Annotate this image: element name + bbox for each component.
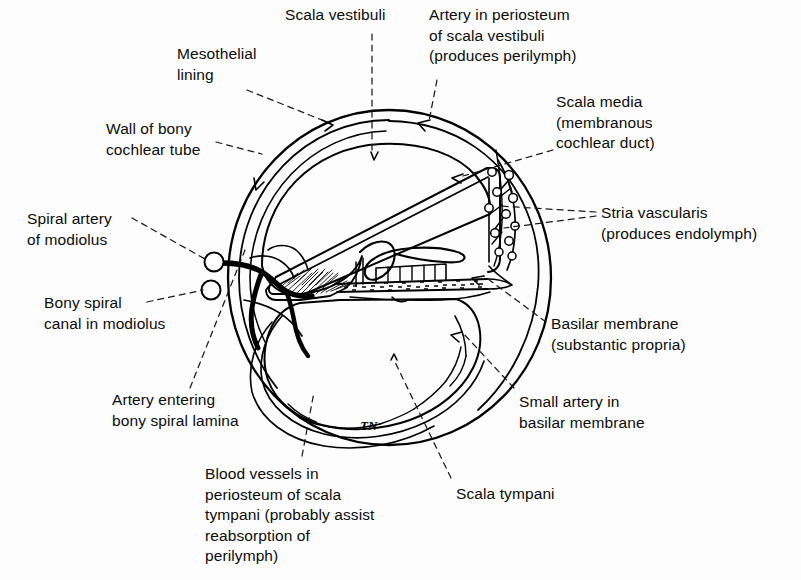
label-blood-vessels-in-periosteum-of-scala-tympani: Blood vessels in periosteum of scala tym… <box>205 464 375 567</box>
spiral-ligament-attachment-path <box>487 266 512 289</box>
spiral-artery-circle <box>205 253 224 272</box>
bony-spiral-canal-circles <box>202 253 224 300</box>
leader-artery-periosteum-sv <box>429 80 437 121</box>
leader-mesothelial-lining <box>247 90 322 120</box>
label-mesothelial-lining: Mesothelial lining <box>177 44 257 85</box>
bony-spiral-canal-circle <box>202 281 221 300</box>
label-scala-vestibuli: Scala vestibuli <box>285 5 386 26</box>
leader-spiral-artery-modiolus <box>132 218 205 259</box>
spiral-limbus-path <box>266 256 362 300</box>
cochlea-diagram-figure: TN Mesothelial lining Scala vestibuli Ar… <box>0 0 801 580</box>
label-spiral-artery-of-modiolus: Spiral artery of modiolus <box>27 209 112 250</box>
artist-signature: TN <box>360 418 378 433</box>
basilar-membrane-lower-edge-path <box>337 289 488 292</box>
label-scala-tympani: Scala tympani <box>456 484 555 505</box>
spiral-artery-branch-down-path <box>251 272 262 348</box>
leader-wall-of-bony-tube <box>216 142 262 154</box>
cochlea-diagram-svg: TN <box>0 0 801 580</box>
scala-tympani-blood-vessels <box>288 347 461 428</box>
label-scala-media: Scala media (membranous cochlear duct) <box>556 92 655 154</box>
label-artery-entering-bony-spiral-lamina: Artery entering bony spiral lamina <box>112 390 239 431</box>
label-small-artery-in-basilar-membrane: Small artery in basilar membrane <box>519 392 645 433</box>
label-stria-vascularis: Stria vascularis (produces endolymph) <box>601 203 757 244</box>
periosteum-layer-path <box>239 120 389 388</box>
reissners-membrane-inner-path <box>278 177 488 285</box>
label-basilar-membrane: Basilar membrane (substantic propria) <box>551 314 686 355</box>
leader-stria-vascularis-b <box>504 216 596 228</box>
label-bony-spiral-canal-in-modiolus: Bony spiral canal in modiolus <box>44 293 165 334</box>
label-wall-of-bony-cochlear-tube: Wall of bony cochlear tube <box>106 119 200 160</box>
label-artery-in-periosteum-of-scala-vestibuli: Artery in periosteum of scala vestibuli … <box>429 5 577 67</box>
leader-small-artery-basilar <box>462 332 514 388</box>
leader-scala-tympani <box>394 360 451 478</box>
